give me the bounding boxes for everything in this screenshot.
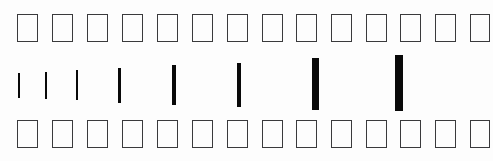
rectangle-outline	[52, 14, 73, 42]
rectangle-outline	[366, 120, 387, 148]
rectangle-outline	[331, 120, 352, 148]
rectangle-outline	[366, 14, 387, 42]
bottom-rectangle-row	[0, 110, 493, 161]
rectangle-outline	[435, 14, 456, 42]
rectangle-outline	[470, 14, 490, 42]
rectangle-outline	[400, 14, 421, 42]
rectangle-outline	[157, 120, 178, 148]
bar	[118, 68, 121, 103]
bar	[312, 58, 319, 110]
rectangle-outline	[122, 14, 143, 42]
rectangle-outline	[122, 120, 143, 148]
rectangle-outline	[87, 14, 108, 42]
rectangle-outline	[470, 120, 490, 148]
rectangle-outline	[227, 120, 248, 148]
rectangle-outline	[296, 14, 317, 42]
figure-canvas	[0, 0, 493, 161]
rectangle-outline	[52, 120, 73, 148]
rectangle-outline	[192, 14, 213, 42]
rectangle-outline	[17, 120, 38, 148]
rectangle-outline	[296, 120, 317, 148]
rectangle-outline	[227, 14, 248, 42]
bar	[172, 65, 176, 105]
rectangle-outline	[262, 14, 283, 42]
bar	[45, 72, 47, 99]
rectangle-outline	[400, 120, 421, 148]
rectangle-outline	[157, 14, 178, 42]
top-rectangle-row	[0, 0, 493, 55]
rectangle-outline	[435, 120, 456, 148]
rectangle-outline	[331, 14, 352, 42]
rectangle-outline	[87, 120, 108, 148]
rectangle-outline	[262, 120, 283, 148]
middle-bar-row	[0, 55, 493, 110]
rectangle-outline	[192, 120, 213, 148]
bar	[395, 55, 403, 111]
rectangle-outline	[17, 14, 38, 42]
bar	[18, 73, 20, 98]
bar	[76, 70, 78, 100]
bar	[237, 63, 241, 107]
